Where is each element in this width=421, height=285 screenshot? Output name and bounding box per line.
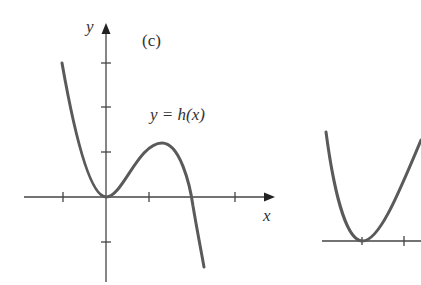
panel-label: (c) bbox=[142, 31, 161, 50]
y-axis-label: y bbox=[84, 17, 94, 36]
x-axis-arrow-icon bbox=[264, 193, 275, 202]
curve-partial bbox=[326, 132, 421, 241]
main-axes bbox=[24, 30, 268, 282]
figure-canvas: y x (c) y = h(x) bbox=[0, 0, 421, 285]
x-axis-label: x bbox=[262, 206, 271, 225]
curve-h bbox=[62, 63, 204, 267]
partial-graph bbox=[322, 132, 421, 246]
y-axis-arrow-icon bbox=[102, 23, 111, 34]
function-label: y = h(x) bbox=[148, 105, 205, 124]
